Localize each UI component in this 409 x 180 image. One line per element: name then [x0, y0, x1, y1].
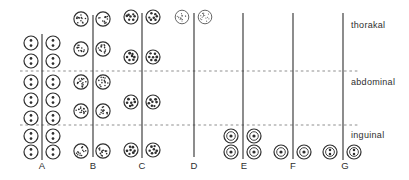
gland-circle-B2-left: [74, 42, 88, 56]
gland-circle-C1-left: [124, 10, 138, 24]
gland-circle-B5-left: [74, 144, 88, 158]
gland-circle-G1-left: [323, 145, 337, 159]
gland-circle-A3-left: [24, 75, 38, 89]
column-G: G: [323, 13, 361, 171]
gland-circle-A5-right: [46, 111, 60, 125]
column-B: B: [74, 12, 110, 171]
column-A: A: [24, 34, 60, 171]
gland-circle-C2-right: [146, 50, 160, 64]
gland-circle-C2-left: [124, 50, 138, 64]
gland-circle-G1-right: [347, 145, 361, 159]
column-letter-f: F: [290, 160, 296, 171]
gland-circle-B3-right: [96, 75, 110, 89]
gland-circle-C4-left: [124, 143, 138, 157]
gland-circle-D1-right: [198, 10, 212, 24]
gland-circle-A1-left: [24, 36, 38, 50]
diagram-canvas: ABCDEFGthorakalabdominalinguinal: [0, 0, 409, 180]
gland-circle-A3-right: [46, 75, 60, 89]
gland-circle-B5-right: [96, 144, 110, 158]
gland-circle-B4-right: [96, 104, 110, 118]
zone-label-inguinal: inguinal: [351, 130, 384, 140]
zone-label-thorakal: thorakal: [351, 20, 385, 30]
column-letter-g: G: [341, 160, 348, 171]
gland-circle-B1-left: [74, 12, 88, 26]
gland-circle-A7-left: [24, 145, 38, 159]
gland-circle-C1-right: [146, 10, 160, 24]
gland-circle-C3-right: [146, 95, 160, 109]
column-letter-c: C: [139, 160, 146, 171]
column-letter-e: E: [241, 160, 247, 171]
gland-circle-B1-right: [96, 12, 110, 26]
gland-circle-E2-left: [224, 145, 238, 159]
figure-milk-line-diagram: ABCDEFGthorakalabdominalinguinal: [0, 0, 409, 180]
gland-circle-B2-right: [96, 42, 110, 56]
gland-circle-A2-left: [24, 54, 38, 68]
column-letter-d: D: [191, 160, 198, 171]
column-D: D: [175, 10, 212, 171]
gland-circle-E1-left: [224, 129, 238, 143]
gland-circle-E1-right: [247, 129, 261, 143]
gland-circle-B4-left: [74, 104, 88, 118]
gland-circle-D1-left: [175, 10, 189, 24]
gland-circle-F1-left: [274, 145, 288, 159]
gland-circle-C3-left: [124, 95, 138, 109]
zone-label-abdominal: abdominal: [351, 77, 395, 87]
gland-circle-F1-right: [297, 145, 311, 159]
gland-circle-E2-right: [247, 145, 261, 159]
gland-circle-A1-right: [46, 36, 60, 50]
gland-circle-A6-left: [24, 129, 38, 143]
gland-circle-B3-left: [74, 75, 88, 89]
gland-circle-C4-right: [146, 143, 160, 157]
gland-circle-A6-right: [46, 129, 60, 143]
gland-circle-A2-right: [46, 54, 60, 68]
gland-circle-A7-right: [46, 145, 60, 159]
column-F: F: [274, 13, 311, 171]
gland-circle-A4-left: [24, 93, 38, 107]
column-letter-b: B: [90, 160, 96, 171]
gland-circle-A4-right: [46, 93, 60, 107]
gland-circle-A5-left: [24, 111, 38, 125]
column-E: E: [224, 13, 261, 171]
column-C: C: [124, 10, 160, 171]
column-letter-a: A: [39, 160, 46, 171]
